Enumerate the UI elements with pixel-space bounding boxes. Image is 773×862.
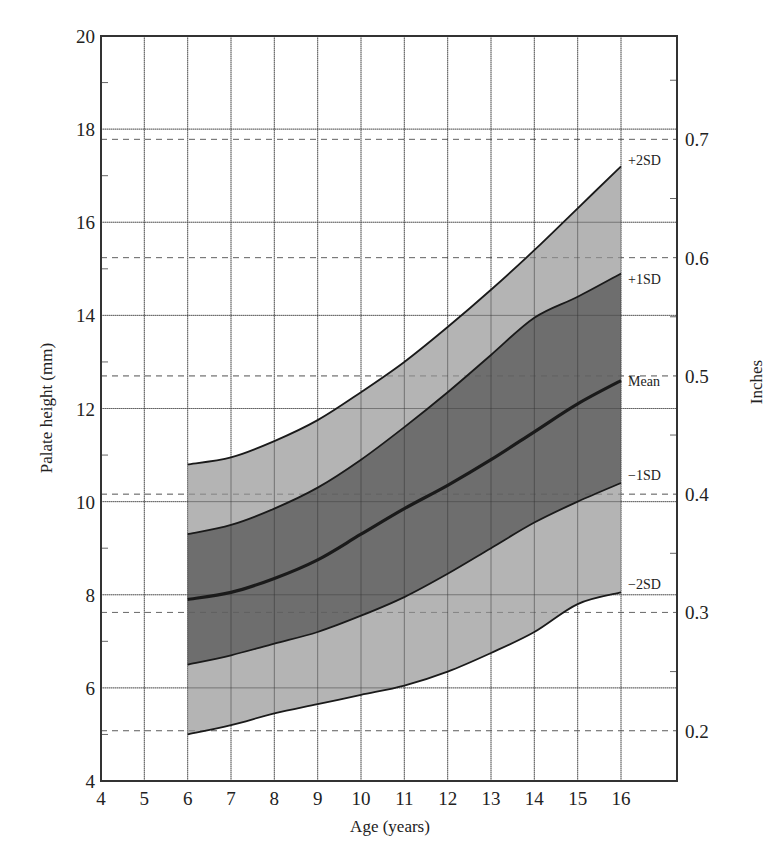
y-tick-label: 8 xyxy=(86,585,96,606)
y-tick-label: 14 xyxy=(76,305,96,326)
x-tick-label: 7 xyxy=(226,788,236,809)
x-tick-label: 6 xyxy=(183,788,193,809)
series-label-1sd: +1SD xyxy=(628,272,661,287)
x-tick-label: 5 xyxy=(140,788,150,809)
y-axis-ticks: 468101214161820 xyxy=(76,26,96,792)
x-tick-label: 4 xyxy=(96,788,106,809)
y-tick-label: 10 xyxy=(76,492,95,513)
x-axis-ticks: 45678910111213141516 xyxy=(96,788,630,809)
y-right-axis-title: Inches xyxy=(747,360,766,404)
y-right-tick-label: 0.7 xyxy=(685,129,709,150)
x-tick-label: 13 xyxy=(482,788,501,809)
y-right-tick-label: 0.3 xyxy=(685,602,709,623)
series-label-2sd: −2SD xyxy=(628,577,661,592)
y-tick-label: 4 xyxy=(86,771,96,792)
palate-height-chart: 45678910111213141516 468101214161820 0.2… xyxy=(0,0,773,862)
x-tick-label: 10 xyxy=(352,788,371,809)
y-right-axis-ticks: 0.20.30.40.50.60.7 xyxy=(685,129,709,741)
x-tick-label: 9 xyxy=(313,788,323,809)
y-tick-label: 16 xyxy=(76,212,95,233)
y-right-tick-label: 0.6 xyxy=(685,248,709,269)
y-tick-label: 6 xyxy=(86,678,96,699)
series-label-1sd: −1SD xyxy=(628,468,661,483)
y-right-tick-label: 0.5 xyxy=(685,366,709,387)
x-tick-label: 15 xyxy=(568,788,587,809)
y-right-tick-label: 0.2 xyxy=(685,721,709,742)
x-tick-label: 12 xyxy=(438,788,457,809)
series-labels: +2SD+1SDMean−1SD−2SD xyxy=(628,153,661,592)
y-tick-label: 18 xyxy=(76,119,95,140)
y-right-tick-label: 0.4 xyxy=(685,484,709,505)
x-tick-label: 14 xyxy=(525,788,545,809)
x-tick-label: 11 xyxy=(395,788,413,809)
y-tick-label: 12 xyxy=(76,399,95,420)
y-axis-title: Palate height (mm) xyxy=(37,343,56,473)
x-axis-title: Age (years) xyxy=(350,817,430,836)
y-tick-label: 20 xyxy=(76,26,95,47)
x-tick-label: 8 xyxy=(270,788,280,809)
series-label-mean: Mean xyxy=(628,374,660,389)
x-tick-label: 16 xyxy=(612,788,631,809)
series-label-2sd: +2SD xyxy=(628,153,661,168)
